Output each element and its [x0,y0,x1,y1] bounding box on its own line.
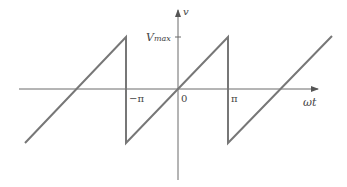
tick-label-pi: π [231,93,238,104]
tick-label-zero: 0 [181,93,187,104]
tick-label-neg-pi: −π [129,93,144,104]
x-axis-label: ωt [303,96,317,109]
vmax-label-sub: max [154,34,171,43]
y-axis-label: v [183,6,189,17]
sawtooth-diagram: v Vmax −π 0 π ωt [0,0,347,187]
vmax-label: Vmax [146,31,171,44]
